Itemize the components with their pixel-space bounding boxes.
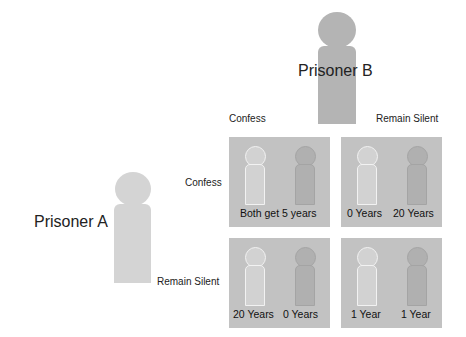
cell-silent-silent: 1 Year 1 Year [341, 238, 442, 328]
row-header-remain-silent: Remain Silent [157, 276, 219, 287]
prisoner-b-outcome: 20 Years [393, 207, 434, 219]
prisoner-a-label: Prisoner A [34, 213, 108, 231]
prisoner-a-body [114, 204, 151, 283]
prisoner-b-mini-body [295, 265, 315, 306]
prisoner-a-outcome: 0 Years [347, 207, 382, 219]
prisoner-a-mini-body [357, 164, 377, 205]
cell-confess-confess: Both get 5 years [229, 137, 330, 227]
prisoner-b-head [318, 12, 356, 48]
prisoner-b-outcome: 0 Years [283, 308, 318, 320]
prisoner-a-mini-body [357, 265, 377, 306]
cell-confess-silent: 0 Years 20 Years [341, 137, 442, 227]
cell-silent-confess: 20 Years 0 Years [229, 238, 330, 328]
prisoner-b-body [318, 46, 356, 124]
prisoner-b-mini-body [295, 164, 315, 205]
prisoner-a-mini-body [245, 265, 265, 306]
prisoner-b-mini-body [407, 164, 427, 205]
prisoner-a-mini-body [245, 164, 265, 205]
prisoner-a-outcome: 20 Years [233, 308, 274, 320]
column-header-remain-silent: Remain Silent [376, 113, 438, 124]
column-header-confess: Confess [229, 113, 266, 124]
prisoner-b-mini-body [407, 265, 427, 306]
prisoner-a-head [115, 172, 151, 206]
prisoner-b-outcome: 1 Year [401, 308, 431, 320]
prisoner-a-outcome: 1 Year [351, 308, 381, 320]
outcome-label: Both get 5 years [240, 207, 316, 219]
prisoner-b-label: Prisoner B [298, 62, 373, 80]
row-header-confess: Confess [185, 177, 222, 188]
